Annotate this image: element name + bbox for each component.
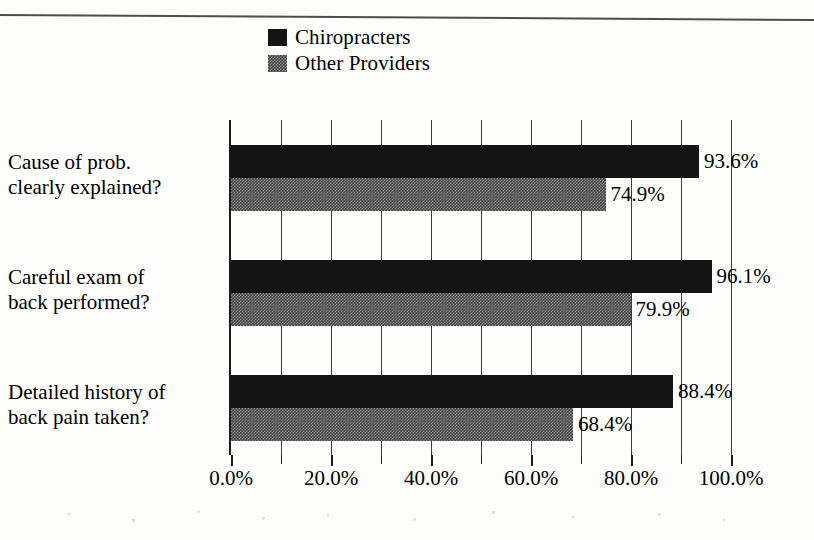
legend-label-other-providers: Other Providers: [295, 52, 430, 75]
x-tick-label-20-0pct: 20.0%: [304, 466, 358, 491]
legend-item-other-providers: Other Providers: [268, 52, 430, 75]
category-label-detailed-history: Detailed history of back pain taken?: [8, 380, 223, 430]
figure-canvas: Chiropracters Other Providers Cause of p…: [0, 0, 814, 540]
x-tick-label-40-0pct: 40.0%: [404, 466, 458, 491]
category-label-line-1: Careful exam of: [8, 265, 223, 290]
bar-1-other-providers: [231, 178, 606, 211]
x-tick-label-100-0pct: 100.0%: [699, 466, 764, 491]
x-tick-70: [581, 455, 582, 464]
x-tick-0: [231, 455, 233, 466]
bar-3-chiropracters: [231, 375, 673, 408]
x-tick-40: [431, 455, 433, 466]
chart-legend: Chiropracters Other Providers: [268, 26, 430, 75]
bar-1-chiropracters: [231, 145, 699, 178]
legend-item-chiropracters: Chiropracters: [268, 26, 430, 49]
x-tick-label-80-0pct: 80.0%: [604, 466, 658, 491]
bar-value-label-2-other-providers: 79.9%: [631, 293, 690, 326]
x-tick-50: [481, 455, 482, 464]
x-tick-80: [631, 455, 633, 466]
bar-value-label-1-chiropracters: 93.6%: [699, 145, 758, 178]
bar-value-label-1-other-providers: 74.9%: [606, 178, 665, 211]
scan-artifact: [40, 505, 760, 527]
x-tick-label-60-0pct: 60.0%: [504, 466, 558, 491]
x-tick-90: [681, 455, 682, 464]
bar-2-other-providers: [231, 293, 631, 326]
category-label-line-2: back performed?: [8, 290, 223, 315]
category-label-line-2: clearly explained?: [8, 175, 223, 200]
x-tick-20: [331, 455, 333, 466]
x-tick-30: [381, 455, 382, 464]
bar-value-label-2-chiropracters: 96.1%: [712, 260, 771, 293]
bar-3-other-providers: [231, 408, 573, 441]
x-tick-label-0-0pct: 0.0%: [209, 466, 253, 491]
category-label-cause-of-problem: Cause of prob. clearly explained?: [8, 150, 223, 200]
category-label-line-1: Cause of prob.: [8, 150, 223, 175]
x-tick-60: [531, 455, 533, 466]
legend-swatch-solid-black-icon: [268, 29, 287, 46]
x-tick-10: [281, 455, 282, 464]
legend-swatch-hatched-gray-icon: [268, 55, 287, 72]
bar-value-label-3-other-providers: 68.4%: [573, 408, 632, 441]
bar-2-chiropracters: [231, 260, 712, 293]
x-tick-100: [731, 455, 733, 466]
category-label-line-2: back pain taken?: [8, 405, 223, 430]
category-label-careful-exam: Careful exam of back performed?: [8, 265, 223, 315]
plot-area: 93.6%74.9%96.1%79.9%88.4%68.4%: [231, 120, 731, 455]
category-label-line-1: Detailed history of: [8, 380, 223, 405]
legend-label-chiropracters: Chiropracters: [295, 26, 411, 49]
bar-value-label-3-chiropracters: 88.4%: [673, 375, 732, 408]
page-header-rule: [0, 14, 814, 21]
